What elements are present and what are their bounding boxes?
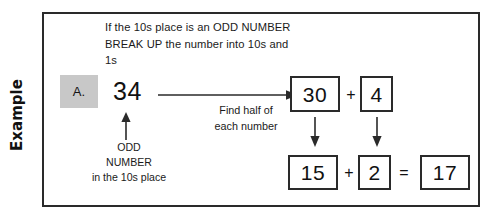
- tens-box: 30: [290, 76, 340, 112]
- plus-operator-top: +: [344, 87, 358, 103]
- item-letter-chip: A.: [60, 75, 98, 108]
- half-note-line-2: each number: [198, 119, 294, 135]
- section-label-example: Example: [2, 60, 32, 170]
- arrow-down-icon-tens: [307, 117, 323, 147]
- plus-operator-bottom: +: [342, 165, 356, 181]
- odd-note-line-2: NUMBER: [73, 155, 185, 170]
- ones-box: 4: [360, 76, 393, 112]
- instruction-text: If the 10s place is an ODD NUMBER BREAK …: [105, 19, 295, 69]
- odd-note-line-1: ODD: [73, 140, 185, 155]
- half-ones-box: 2: [358, 155, 391, 190]
- start-number: 34: [113, 78, 142, 105]
- half-tens-box: 15: [288, 155, 338, 190]
- result-box: 17: [420, 155, 470, 190]
- odd-number-note: ODD NUMBER in the 10s place: [73, 140, 185, 185]
- arrow-down-icon-ones: [369, 117, 385, 147]
- arrow-up-icon: [115, 112, 137, 140]
- half-note-line-1: Find half of: [198, 103, 294, 119]
- odd-note-line-3: in the 10s place: [73, 170, 185, 185]
- equals-operator: =: [396, 165, 412, 181]
- arrow-right-icon: [158, 87, 298, 103]
- find-half-note: Find half of each number: [198, 103, 294, 134]
